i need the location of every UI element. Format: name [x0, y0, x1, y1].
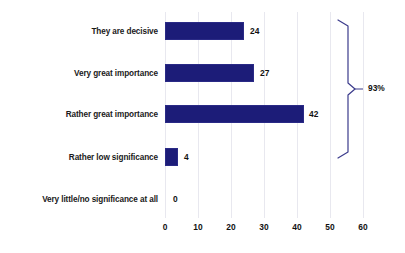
bar-row: Very little/no significance at all 0 — [165, 190, 363, 208]
value-label: 4 — [184, 152, 189, 162]
category-label: Rather great importance — [66, 110, 158, 119]
gridline-60 — [363, 12, 364, 218]
x-axis: 0 10 20 30 40 50 60 — [165, 222, 363, 238]
bar[interactable] — [165, 148, 178, 166]
bracket-annotation-label: 93% — [368, 83, 385, 93]
category-label: Rather low significance — [69, 153, 158, 162]
value-label: 24 — [250, 26, 259, 36]
x-tick-label: 20 — [226, 222, 235, 232]
x-tick-label: 50 — [325, 222, 334, 232]
bracket-icon — [333, 18, 363, 160]
x-tick-label: 10 — [193, 222, 202, 232]
value-label: 27 — [260, 68, 269, 78]
category-label: Very great importance — [74, 69, 158, 78]
bar[interactable] — [165, 105, 304, 123]
x-tick-label: 60 — [358, 222, 367, 232]
value-label: 0 — [173, 194, 178, 204]
x-tick-label: 40 — [292, 222, 301, 232]
x-tick-label: 0 — [163, 222, 168, 232]
category-label: They are decisive — [91, 27, 158, 36]
bar[interactable] — [165, 64, 254, 82]
bar[interactable] — [165, 22, 244, 40]
category-label: Very little/no significance at all — [42, 195, 158, 204]
x-tick-label: 30 — [259, 222, 268, 232]
value-label: 42 — [309, 109, 318, 119]
bar-chart: They are decisive 24 Very great importan… — [0, 0, 405, 253]
